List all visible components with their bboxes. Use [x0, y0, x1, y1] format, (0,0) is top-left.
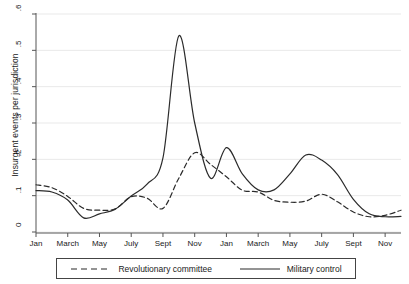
chart-legend: Revolutionary committee Military control	[56, 258, 356, 279]
x-tick-label: Nov	[188, 239, 202, 248]
y-tick-label: .5	[14, 41, 23, 57]
y-tick-label: .1	[14, 186, 23, 202]
y-tick-label: .4	[14, 77, 23, 93]
y-tick-label: .3	[14, 114, 23, 130]
x-tick-label: March	[247, 239, 269, 248]
x-tick-label: July	[315, 239, 329, 248]
x-tick-label: July	[124, 239, 138, 248]
legend-item-revolutionary-committee: Revolutionary committee	[70, 264, 212, 274]
x-tick-label: Jan	[220, 239, 233, 248]
legend-swatch-solid-icon	[239, 264, 281, 274]
legend-label: Revolutionary committee	[118, 264, 212, 274]
legend-item-military-control: Military control	[239, 264, 342, 274]
y-tick-label: .6	[14, 5, 23, 21]
x-tick-label: Sept	[345, 239, 361, 248]
series-line-military-control	[36, 35, 401, 218]
x-tick-label: May	[282, 239, 297, 248]
x-tick-label: Jan	[30, 239, 43, 248]
chart-figure: Insurgent events per jurisdiction 0.1.2.…	[0, 0, 409, 284]
series-line-revolutionary-committee	[36, 152, 401, 216]
y-tick-label: .2	[14, 150, 23, 166]
x-tick-label: Nov	[378, 239, 392, 248]
legend-label: Military control	[287, 264, 342, 274]
x-tick-label: March	[57, 239, 79, 248]
x-tick-label: May	[92, 239, 107, 248]
x-tick-label: Sept	[155, 239, 171, 248]
legend-swatch-dashed-icon	[70, 264, 112, 274]
y-tick-label: 0	[14, 223, 23, 239]
